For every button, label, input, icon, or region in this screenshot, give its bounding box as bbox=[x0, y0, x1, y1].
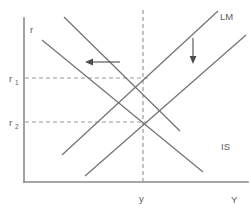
axes-group bbox=[24, 18, 248, 182]
is-shift-arrow bbox=[85, 59, 120, 66]
tick-label-r1-subscript: 1 bbox=[15, 79, 19, 86]
curve-label-lm: LM bbox=[220, 11, 233, 22]
curve-label-is: IS bbox=[221, 141, 230, 152]
lm-curve-shifted bbox=[85, 35, 246, 176]
curves-group bbox=[42, 11, 246, 176]
tick-label-r1: r bbox=[9, 73, 12, 84]
tick-label-r2: r bbox=[9, 117, 12, 128]
tick-label-y-output: y bbox=[139, 193, 144, 204]
is-shift-arrow-head bbox=[85, 59, 93, 66]
lm-shift-arrow bbox=[190, 38, 197, 64]
lm-shift-arrow-head bbox=[190, 56, 197, 64]
is-curve-shifted bbox=[42, 40, 203, 172]
x-axis-label: Y bbox=[231, 194, 238, 205]
lm-curve-initial bbox=[62, 11, 218, 155]
tick-label-r2-subscript: 2 bbox=[15, 123, 19, 130]
chart-canvas: r Y r 1 r 2 y LM IS bbox=[0, 0, 251, 211]
is-lm-diagram: r Y r 1 r 2 y LM IS bbox=[0, 0, 251, 211]
reference-lines-group bbox=[25, 10, 149, 182]
is-curve-initial bbox=[64, 17, 180, 131]
y-axis-label: r bbox=[30, 24, 33, 35]
